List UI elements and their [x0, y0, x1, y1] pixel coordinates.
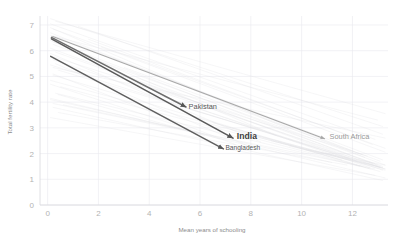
annotation-south-africa: South Africa — [330, 132, 371, 141]
background-trend-line — [58, 112, 348, 165]
y-tick-label: 4 — [30, 98, 35, 107]
x-tick-label: 10 — [297, 209, 306, 218]
chart-svg: 02468101201234567 PakistanIndiaBanglades… — [0, 0, 398, 250]
background-trend-line — [50, 84, 220, 139]
annotation-pakistan: Pakistan — [189, 102, 217, 111]
x-tick-label: 12 — [348, 209, 357, 218]
annotation-india: India — [237, 131, 257, 141]
y-tick-label: 1 — [30, 175, 35, 184]
y-tick-label: 3 — [30, 124, 35, 133]
country-line-pakistan — [51, 37, 186, 107]
x-tick-label: 6 — [198, 209, 203, 218]
country-line-india — [51, 39, 233, 138]
annotation-bangladesh: Bangladesh — [225, 144, 260, 152]
y-tick-label: 6 — [30, 47, 35, 56]
x-tick-label: 2 — [96, 209, 101, 218]
background-trend-line — [53, 103, 190, 131]
y-tick-label: 2 — [30, 150, 35, 159]
x-axis-title: Mean years of schooling — [178, 226, 246, 233]
background-trend-line — [289, 146, 383, 168]
background-trend-line — [53, 67, 386, 138]
y-tick-label: 7 — [30, 21, 35, 30]
x-tick-label: 0 — [45, 209, 50, 218]
y-tick-label: 0 — [30, 201, 35, 210]
y-axis-title: Total fertility rate — [6, 89, 13, 135]
background-trend-lines — [50, 19, 385, 181]
x-tick-label: 4 — [147, 209, 152, 218]
highlighted-country-lines — [51, 37, 325, 149]
background-trend-line — [58, 94, 205, 135]
country-line-south-africa — [53, 37, 325, 139]
background-trend-line — [53, 75, 371, 169]
background-trend-line — [63, 105, 375, 169]
x-tick-label: 8 — [249, 209, 254, 218]
background-trend-line — [50, 53, 261, 142]
fertility-schooling-chart: 02468101201234567 PakistanIndiaBanglades… — [0, 0, 398, 250]
y-tick-label: 5 — [30, 72, 35, 81]
